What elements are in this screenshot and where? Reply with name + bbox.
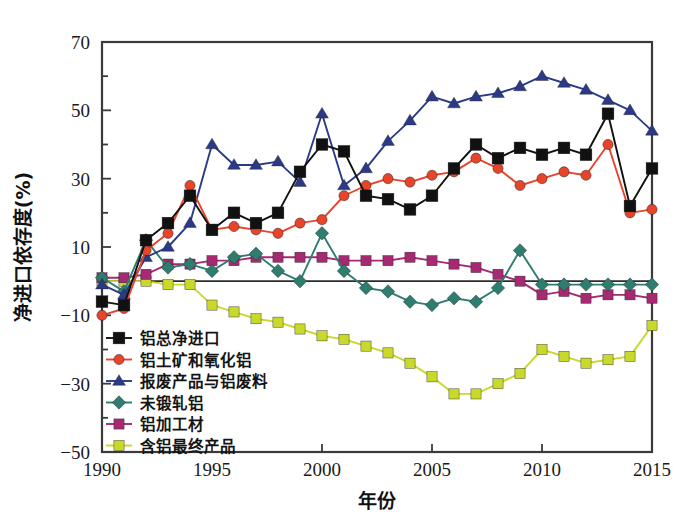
legend-marker [114,354,124,364]
data-point [581,293,591,303]
data-point [426,190,438,202]
data-point [448,163,460,175]
data-point [251,314,261,324]
data-point [316,107,329,118]
chart-figure: 铝总净进口铝土矿和氧化铝报废产品与铝废料未锻轧铝铝加工材含铝最终产品 −50−3… [0,0,691,525]
legend-marker [114,440,124,450]
data-point [294,166,306,178]
data-point [601,278,614,291]
data-point [229,307,239,317]
legend-item-3[interactable]: 报废产品与铝废料 [106,372,268,391]
data-point [229,221,239,231]
data-point [602,94,615,105]
data-point [383,174,393,184]
data-point [97,310,107,320]
data-point [381,285,394,298]
data-point [273,317,283,327]
data-point [184,190,196,202]
data-point [162,217,174,229]
data-point [493,163,503,173]
data-point [645,278,658,291]
data-point [96,296,108,308]
data-point [338,179,351,190]
data-point [427,170,437,180]
y-axis-tick-label: −30 [60,374,90,395]
legend-item-4[interactable]: 未锻轧铝 [106,394,204,413]
series-line [102,233,652,305]
legend-marker [113,332,125,344]
data-point [493,269,503,279]
data-point [513,244,526,257]
data-point [471,389,481,399]
data-point [603,355,613,365]
legend-marker [112,396,125,409]
data-point [492,152,504,164]
data-point [403,295,416,308]
legend-item-5[interactable]: 铝加工材 [106,415,204,434]
data-point [559,351,569,361]
data-point [207,300,217,310]
data-point [295,324,305,334]
data-point [405,177,415,187]
data-point [469,295,482,308]
data-point [537,344,547,354]
data-point [449,259,459,269]
data-point [339,334,349,344]
data-point [163,228,173,238]
series-4 [95,227,658,312]
legend-label: 铝加工材 [140,415,204,434]
data-point [317,215,327,225]
data-point [205,264,218,277]
series-5 [97,252,657,303]
legend-item-2[interactable]: 铝土矿和氧化铝 [106,351,252,370]
y-axis-tick-label: −10 [60,305,90,326]
data-point [447,292,460,305]
data-point [206,224,218,236]
legend-layer: 铝总净进口铝土矿和氧化铝报废产品与铝废料未锻轧铝铝加工材含铝最终产品 [106,329,268,456]
data-point [581,170,591,180]
data-point [558,142,570,154]
data-point [118,299,130,311]
data-point [426,90,439,101]
series-line [102,76,652,295]
data-point [404,204,416,216]
legend-marker [114,419,124,429]
data-point [383,348,393,358]
data-point [185,279,195,289]
data-point [580,149,592,161]
data-point [185,180,195,190]
y-axis-tick-label: 50 [71,100,90,121]
legend-label: 未锻轧铝 [139,394,204,413]
data-point [579,278,592,291]
data-point [603,139,613,149]
x-axis-tick-label: 2015 [633,459,671,480]
legend-label: 铝总净进口 [140,329,220,348]
data-point [361,256,371,266]
data-point [427,372,437,382]
data-point [581,358,591,368]
data-point [471,262,481,272]
data-point [383,256,393,266]
data-point [536,70,549,81]
data-point [471,153,481,163]
data-point [295,218,305,228]
legend-item-1[interactable]: 铝总净进口 [106,329,220,348]
data-point [315,227,328,240]
data-point [405,252,415,262]
x-axis-tick-label: 1990 [83,459,121,480]
data-point [293,274,306,287]
data-point [536,149,548,161]
data-point [184,217,197,228]
data-point [647,320,657,330]
y-axis-tick-label: 70 [71,32,90,53]
data-point [514,80,527,91]
x-axis-tick-label: 2010 [523,459,561,480]
data-point [272,207,284,219]
legend-label: 铝土矿和氧化铝 [140,351,252,370]
data-point [360,190,372,202]
x-axis-tick-label: 1995 [193,459,231,480]
data-point [206,138,219,149]
data-point [427,256,437,266]
data-point [273,228,283,238]
data-point [339,191,349,201]
